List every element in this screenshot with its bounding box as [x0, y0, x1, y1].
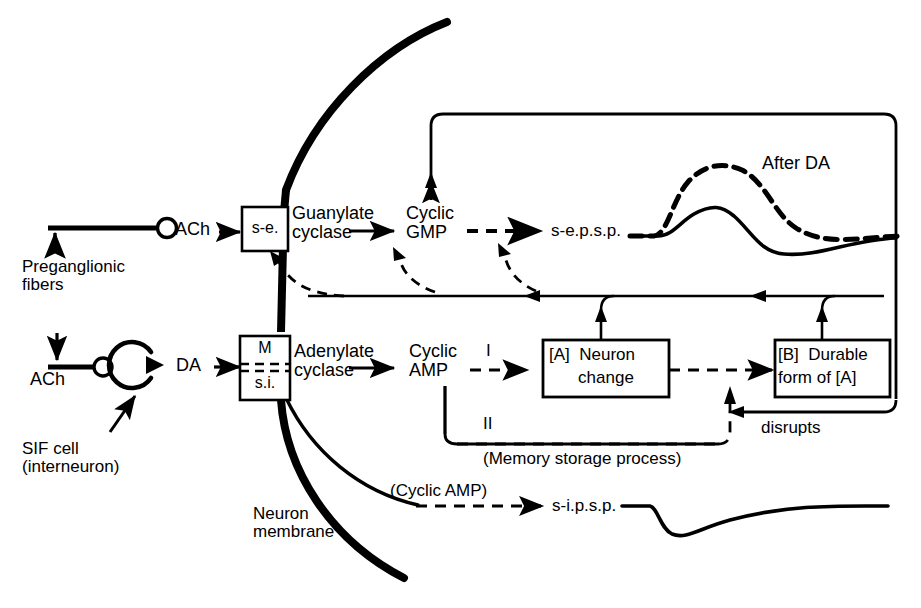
- msi-box-label-m: M: [243, 339, 287, 356]
- box-a-line2: change: [543, 369, 669, 387]
- box-b-line1: [B] Durable: [778, 346, 868, 364]
- middle-feedback-line: [308, 290, 884, 340]
- msi-box-label-si: s.i.: [243, 374, 287, 391]
- after-da-label: After DA: [762, 154, 830, 173]
- diagram-vector-layer: [0, 0, 921, 608]
- sepsp-waveform: [630, 166, 904, 255]
- dashed-modulation-curves: [270, 243, 536, 296]
- preganglionic-fibers-label: Preganglionic fibers: [22, 258, 125, 295]
- adenylate-cyclase-label: Adenylate cyclase: [294, 342, 374, 381]
- box-b-line2: form of [A]: [778, 369, 856, 387]
- cyclic-gmp-label: Cyclic GMP: [406, 204, 454, 243]
- preganglionic-fiber-icon: [48, 219, 177, 253]
- memory-storage-caption: (Memory storage process): [483, 450, 681, 468]
- disrupts-arrow: [728, 400, 896, 418]
- ach-label-sif: ACh: [30, 370, 65, 389]
- disrupts-label: disrupts: [761, 419, 821, 437]
- pathway-I-label: I: [486, 342, 491, 360]
- sepsp-label: s-e.p.s.p.: [551, 222, 621, 240]
- cyclic-amp-parenthetical: (Cyclic AMP): [390, 482, 487, 500]
- cyclic-amp-label: Cyclic AMP: [409, 342, 457, 381]
- da-label: DA: [176, 356, 201, 375]
- se-box-label: s-e.: [244, 219, 286, 236]
- sipsp-waveform: [622, 506, 888, 536]
- guanylate-cyclase-label: Guanylate cyclase: [292, 204, 374, 243]
- pathway-II-label: II: [483, 415, 492, 433]
- sif-cell-icon: [48, 333, 164, 432]
- ach-label-preganglionic: ACh: [175, 220, 210, 239]
- box-a-line1: [A] Neuron: [549, 346, 635, 364]
- neuron-membrane-label: Neuron membrane: [253, 505, 334, 542]
- sif-cell-label: SIF cell (interneuron): [22, 440, 119, 477]
- diagram-canvas: Preganglionic fibers ACh ACh SIF cell (i…: [0, 0, 921, 608]
- sipsp-label: s-i.p.s.p.: [552, 497, 616, 515]
